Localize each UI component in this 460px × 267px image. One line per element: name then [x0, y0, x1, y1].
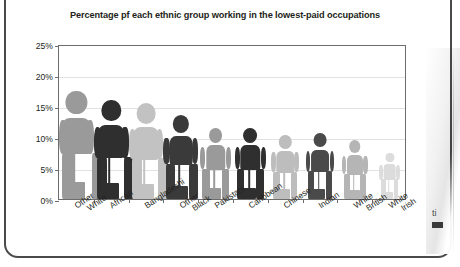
- y-axis-tick-label: 20%: [13, 72, 53, 82]
- person-torso: [206, 145, 225, 169]
- y-axis-tick-mark: [55, 201, 59, 202]
- person-leg-left: [344, 174, 350, 199]
- person-icon: [129, 103, 164, 199]
- pictogram-bar-chart: Percentage pf each ethnic group working …: [14, 4, 422, 262]
- person-arm-left: [129, 129, 136, 159]
- person-head: [279, 135, 291, 149]
- person-icon: [59, 91, 94, 200]
- person-torso: [311, 150, 329, 172]
- person-icon: [94, 100, 129, 199]
- cutoff-panel-text: ti: [432, 208, 458, 219]
- person-arm-left: [271, 152, 276, 172]
- person-arm-right: [363, 156, 367, 174]
- person-arm-right: [121, 127, 128, 158]
- person-torso: [276, 151, 293, 173]
- person-arm-right: [156, 129, 163, 159]
- person-torso: [347, 155, 363, 175]
- person-icon: [200, 128, 231, 199]
- pictogram-data-point: [94, 100, 129, 199]
- chart-title: Percentage pf each ethnic group working …: [60, 9, 390, 22]
- person-torso: [241, 145, 260, 169]
- y-axis-tick-label: 10%: [13, 134, 53, 144]
- y-axis-tick-label: 25%: [13, 41, 53, 51]
- person-head: [209, 128, 223, 143]
- person-head: [102, 100, 121, 121]
- person-arm-right: [294, 152, 299, 172]
- chart-title-line-2: lowest-paid occupations: [275, 10, 380, 20]
- person-arm-left: [306, 151, 311, 172]
- x-axis-category-labels: OtherWhiteAfricanBangladeshiOtherBlackPa…: [58, 203, 406, 265]
- person-torso: [169, 136, 192, 164]
- pictogram-data-point: [129, 103, 164, 199]
- person-arm-right: [330, 151, 335, 172]
- pictogram-data-point: [59, 91, 94, 200]
- cutoff-panel-swatch: [432, 222, 443, 228]
- person-head: [137, 103, 156, 124]
- person-arm-left: [59, 120, 67, 154]
- person-leg-left: [62, 153, 73, 199]
- person-torso: [383, 164, 396, 180]
- y-axis-tick-label: 15%: [13, 103, 53, 113]
- y-axis-tick-label: 5%: [13, 165, 53, 175]
- person-arm-right: [86, 120, 94, 154]
- person-torso: [133, 127, 159, 160]
- person-head: [66, 91, 87, 114]
- person-arm-left: [94, 127, 101, 158]
- person-arm-left: [342, 156, 346, 174]
- person-arm-right: [261, 147, 266, 169]
- person-head: [314, 133, 327, 147]
- person-head: [173, 115, 189, 133]
- person-icon: [342, 140, 368, 199]
- gridline: [59, 77, 405, 78]
- y-axis-tick-mark: [55, 77, 59, 78]
- person-arm-left: [200, 147, 205, 169]
- person-head: [349, 140, 360, 153]
- y-axis-tick-label: 0%: [13, 196, 53, 206]
- person-head: [385, 153, 394, 163]
- cutoff-neighbor-panel: ti: [432, 208, 458, 242]
- chart-title-line-1: Percentage pf each ethnic group working …: [70, 10, 273, 20]
- person-arm-left: [163, 138, 169, 164]
- plot-area: 25%20%15%10%5%0%: [58, 45, 406, 200]
- person-head: [243, 128, 257, 143]
- y-axis-tick-mark: [55, 46, 59, 47]
- person-arm-right: [396, 165, 399, 180]
- person-arm-right: [226, 147, 231, 169]
- person-arm-left: [235, 147, 240, 169]
- person-arm-left: [379, 165, 382, 180]
